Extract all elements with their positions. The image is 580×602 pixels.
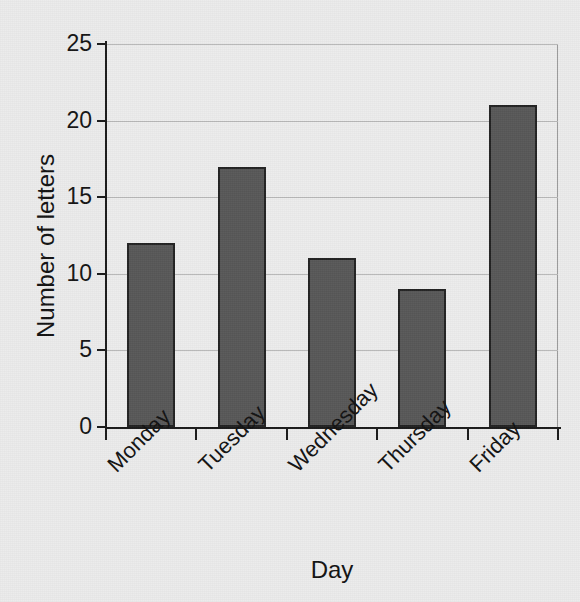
y-tick-mark-25 <box>97 43 106 45</box>
y-tick-mark-10 <box>97 273 106 275</box>
bar-friday <box>489 105 537 427</box>
x-axis-title: Day <box>106 556 558 584</box>
y-tick-mark-5 <box>97 349 106 351</box>
bar-tuesday <box>218 167 266 427</box>
gridline-25 <box>106 44 558 45</box>
y-tick-mark-0 <box>97 426 106 428</box>
y-tick-mark-20 <box>97 120 106 122</box>
y-tick-label-25: 25 <box>40 32 92 55</box>
plot-area <box>106 44 558 427</box>
bar-monday <box>127 243 175 427</box>
plot-border-right <box>557 44 558 427</box>
x-axis-tick-labels: MondayTuesdayWednesdayThursdayFriday <box>0 430 580 550</box>
y-tick-mark-15 <box>97 196 106 198</box>
y-axis-title: Number of letters <box>32 96 60 396</box>
bar-chart-figure: 0510152025 MondayTuesdayWednesdayThursda… <box>0 0 580 602</box>
y-axis-line <box>105 41 107 430</box>
